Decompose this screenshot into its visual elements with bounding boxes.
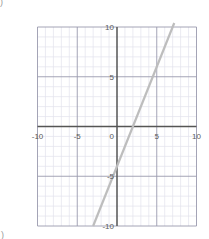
plotted-line-series [93,23,174,226]
coordinate-plane-figure: ) -10-50510105-5-10 ) [0,0,209,239]
x-tick-label: -10 [32,132,44,141]
x-tick-label: 10 [192,132,201,141]
data-line [93,23,174,226]
x-tick-label: 5 [155,132,160,141]
y-tick-label: 5 [110,73,115,82]
graph-canvas: -10-50510105-5-10 [0,0,209,239]
x-tick-label: 0 [110,132,115,141]
y-tick-label: -5 [107,172,115,181]
y-tick-label: -10 [102,222,114,231]
bottom-left-corner-mark: ) [1,231,4,239]
x-tick-label: -5 [74,132,82,141]
y-tick-label: 10 [105,23,114,32]
